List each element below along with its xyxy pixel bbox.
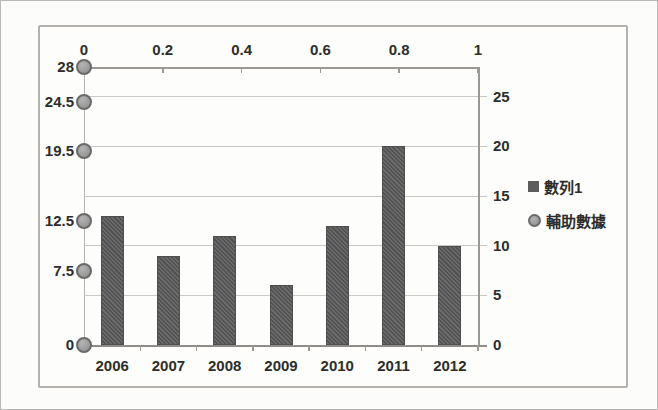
bar-2007 bbox=[157, 256, 180, 345]
bottom-axis-tick bbox=[196, 345, 198, 351]
aux-data-point-marker bbox=[76, 213, 92, 229]
gridline bbox=[84, 146, 487, 147]
bar-2008 bbox=[213, 236, 236, 345]
aux-data-point-label: 7.5 bbox=[16, 262, 74, 280]
aux-data-point-marker bbox=[76, 263, 92, 279]
top-axis-tick-label: 0.2 bbox=[141, 41, 185, 59]
top-axis-tick-label: 0.6 bbox=[298, 41, 342, 59]
top-axis-tick-label: 0.8 bbox=[377, 41, 421, 59]
right-axis-tick-label: 20 bbox=[493, 137, 527, 155]
aux-data-point-marker bbox=[76, 94, 92, 110]
bottom-axis-tick bbox=[365, 345, 367, 351]
legend-item-aux-data: 輔助數據 bbox=[528, 210, 606, 231]
right-axis-tick-label: 5 bbox=[493, 286, 527, 304]
bottom-axis-tick bbox=[140, 345, 142, 351]
bar-2006 bbox=[101, 216, 124, 345]
legend-label-series1: 數列1 bbox=[544, 176, 582, 197]
bar-2012 bbox=[438, 246, 461, 345]
aux-data-point-label: 19.5 bbox=[16, 142, 74, 160]
top-axis-tick-label: 0 bbox=[62, 41, 106, 59]
bottom-axis-tick bbox=[421, 345, 423, 351]
gridline bbox=[84, 96, 487, 97]
top-axis-tick bbox=[398, 67, 400, 73]
chart-legend: 數列1 輔助數據 bbox=[528, 176, 606, 244]
bar-2010 bbox=[326, 226, 349, 345]
top-axis-tick bbox=[162, 67, 164, 73]
aux-data-point-marker bbox=[76, 143, 92, 159]
right-axis-tick-label: 25 bbox=[493, 88, 527, 106]
right-axis-tick-label: 10 bbox=[493, 237, 527, 255]
series1-square-marker-icon bbox=[528, 181, 539, 192]
aux-data-circle-marker-icon bbox=[528, 214, 541, 227]
right-axis-line bbox=[478, 67, 480, 345]
aux-data-point-marker bbox=[76, 337, 92, 353]
category-label: 2010 bbox=[308, 357, 366, 375]
bar-2009 bbox=[270, 285, 293, 345]
category-label: 2007 bbox=[139, 357, 197, 375]
top-axis-line bbox=[84, 67, 478, 69]
gridline bbox=[84, 196, 487, 197]
category-label: 2012 bbox=[421, 357, 479, 375]
category-label: 2011 bbox=[365, 357, 423, 375]
bottom-axis-line bbox=[84, 345, 487, 347]
legend-label-aux-data: 輔助數據 bbox=[546, 210, 606, 231]
top-axis-tick bbox=[320, 67, 322, 73]
aux-data-point-label: 28 bbox=[16, 58, 74, 76]
top-axis-tick-label: 0.4 bbox=[220, 41, 264, 59]
aux-data-point-label: 24.5 bbox=[16, 93, 74, 111]
category-label: 2009 bbox=[252, 357, 310, 375]
top-axis-tick bbox=[241, 67, 243, 73]
bottom-axis-tick bbox=[477, 345, 479, 351]
top-axis-tick-label: 1 bbox=[456, 41, 500, 59]
right-axis-tick-label: 15 bbox=[493, 187, 527, 205]
aux-data-point-label: 12.5 bbox=[16, 212, 74, 230]
gridline bbox=[84, 245, 487, 246]
right-axis-tick-label: 0 bbox=[493, 336, 527, 354]
aux-data-point-label: 0 bbox=[16, 336, 74, 354]
bottom-axis-tick bbox=[252, 345, 254, 351]
category-label: 2008 bbox=[196, 357, 254, 375]
bottom-axis-tick bbox=[308, 345, 310, 351]
aux-data-point-marker bbox=[76, 59, 92, 75]
category-label: 2006 bbox=[83, 357, 141, 375]
legend-item-series1: 數列1 bbox=[528, 176, 606, 197]
bar-2011 bbox=[382, 146, 405, 345]
